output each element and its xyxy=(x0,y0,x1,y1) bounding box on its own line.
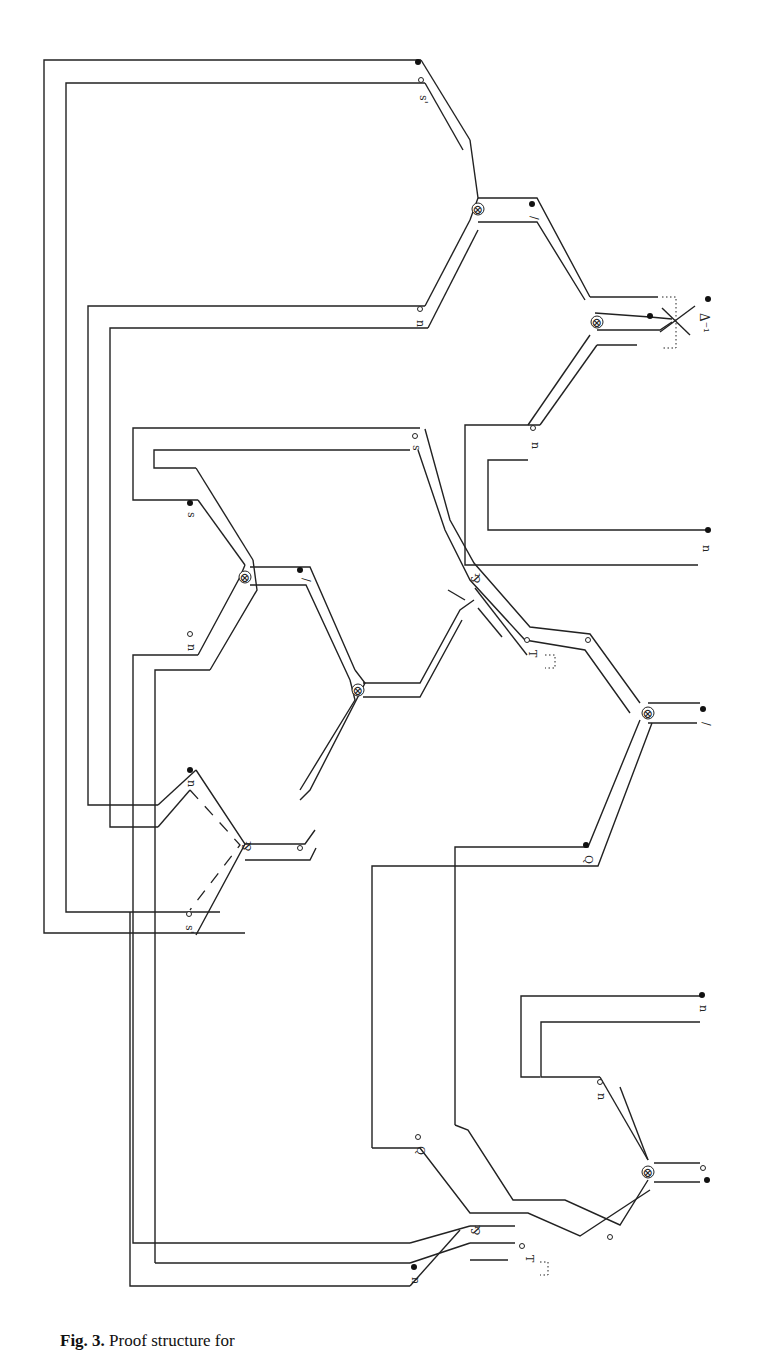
label-slash: / xyxy=(528,216,541,220)
label-n: n xyxy=(595,1093,608,1100)
bottom-q-link xyxy=(372,1125,650,1236)
label-T: T xyxy=(523,1255,536,1263)
top-right-n-frame xyxy=(465,425,706,565)
label-s: s xyxy=(185,512,198,518)
label-n: n xyxy=(414,320,427,327)
polarity-markers xyxy=(187,59,712,1270)
tensor-icon: ⊗ xyxy=(592,315,603,330)
label-n: n xyxy=(409,1277,422,1284)
proof-net-diagram: ⊗ ⊗ ⊗ ⊗ ⊗ ⊗ ⅋ ⅋ ⅋ xyxy=(0,0,764,1300)
top-frame-sprime xyxy=(44,60,425,933)
label-s-prime: s' xyxy=(183,925,196,934)
figure-caption: Fig. 3. Proof structure for xyxy=(60,1331,235,1351)
top-sprime-link xyxy=(421,60,470,150)
center-s-frame xyxy=(418,429,640,713)
label-Q: Q xyxy=(582,855,595,864)
label-n: n xyxy=(529,442,542,449)
label-slash: / xyxy=(300,578,313,582)
top-tensor-cell xyxy=(470,140,590,300)
label-delta-inverse: Δ⁻¹ xyxy=(697,313,711,333)
caption-text: Proof structure for xyxy=(109,1331,235,1350)
bottom-right-tensor-cell xyxy=(654,1163,700,1182)
par-icon: ⅋ xyxy=(468,573,482,584)
tensor-icon: ⊗ xyxy=(643,1165,654,1180)
top-right-tensor-cell xyxy=(528,297,695,425)
right-tensor-cell xyxy=(372,703,700,1148)
caption-label: Fig. 3. xyxy=(60,1331,105,1350)
bottom-n-frame xyxy=(521,996,700,1160)
label-n: n xyxy=(697,1005,710,1012)
node-symbols: ⊗ ⊗ ⊗ ⊗ ⊗ ⊗ ⅋ ⅋ ⅋ xyxy=(239,202,654,1235)
tensor-icon: ⊗ xyxy=(240,570,251,585)
mid-upper-tensor-cell xyxy=(198,560,355,680)
bottom-n-left-frame xyxy=(130,912,460,1286)
mid-par-cell xyxy=(190,770,316,935)
label-Q: Q xyxy=(414,1146,427,1155)
mid-n-frame xyxy=(133,655,410,1263)
tensor-icon: ⊗ xyxy=(353,683,364,698)
label-n: n xyxy=(700,545,713,552)
par-icon: ⅋ xyxy=(468,1225,482,1236)
label-n: n xyxy=(185,780,198,787)
label-s-prime: s' xyxy=(417,95,430,104)
tensor-icon: ⊗ xyxy=(473,202,484,217)
labels: s' n / Δ⁻¹ n n s n / n s' s T / Q Q n T … xyxy=(183,95,713,1284)
label-s: s xyxy=(410,445,423,451)
par-icon: ⅋ xyxy=(239,841,253,852)
mid-center-tensor-cell xyxy=(300,590,474,800)
label-n: n xyxy=(185,644,198,651)
mid-n2-link xyxy=(158,770,196,827)
label-slash: / xyxy=(700,722,713,726)
tensor-icon: ⊗ xyxy=(643,706,654,721)
label-T: T xyxy=(526,650,539,658)
mid-s-frame xyxy=(133,428,420,565)
